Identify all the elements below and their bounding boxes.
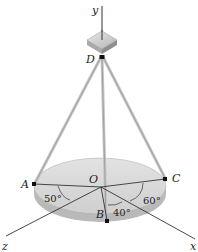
angle-40: 40° [113, 207, 131, 218]
point-A [32, 182, 36, 186]
angle-60: 60° [143, 195, 161, 206]
angle-50: 50° [44, 193, 62, 204]
y-axis-label: y [91, 4, 99, 17]
label-B: B [95, 208, 104, 221]
point-B [105, 219, 109, 223]
label-D: D [85, 53, 95, 66]
point-D [100, 55, 105, 59]
label-O: O [89, 173, 98, 186]
z-axis-label: z [1, 240, 8, 252]
diagram: y D z x A C [0, 0, 198, 252]
label-C: C [172, 172, 181, 185]
x-axis-label: x [190, 240, 197, 252]
point-C [163, 177, 167, 181]
label-A: A [20, 178, 29, 191]
